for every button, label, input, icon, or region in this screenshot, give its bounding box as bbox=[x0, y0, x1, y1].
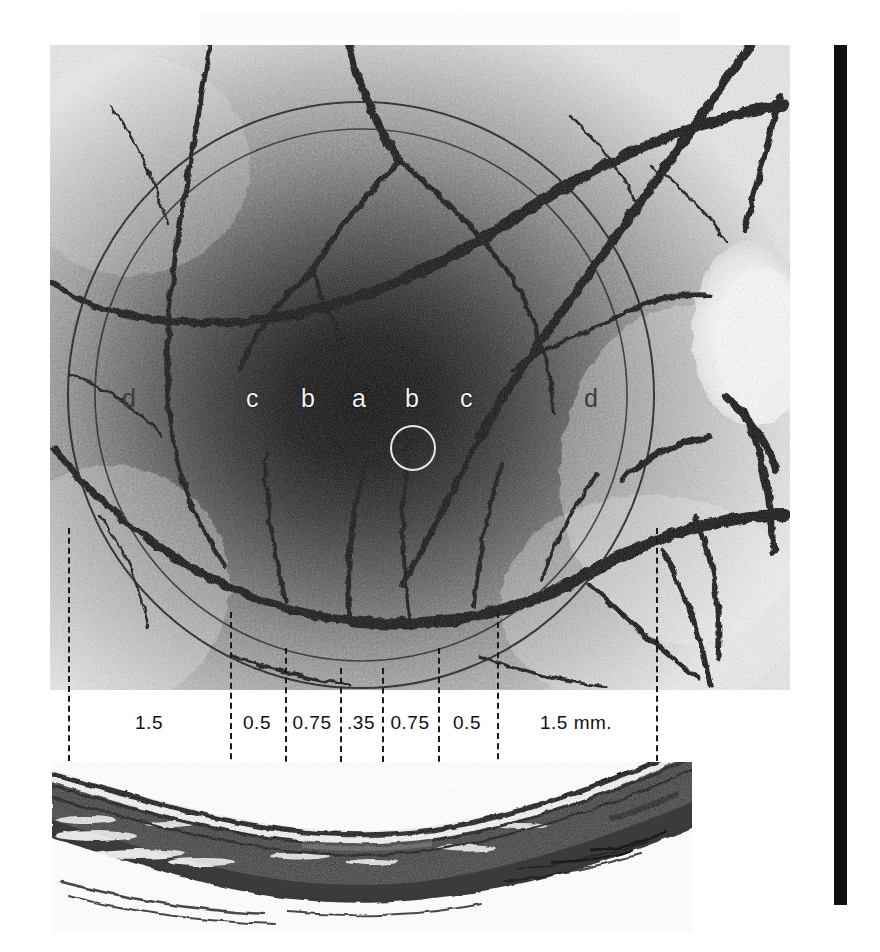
measure-label-5: 0.5 bbox=[442, 712, 492, 734]
zone-letter-a-center: a bbox=[352, 386, 366, 411]
measure-label-0: 1.5 bbox=[109, 712, 189, 734]
fundus-image bbox=[50, 45, 790, 690]
zone-letter-b-left: b bbox=[301, 386, 315, 411]
histology-cross-section bbox=[52, 762, 692, 932]
measure-label-4: 0.75 bbox=[385, 712, 435, 734]
fovea-ring-marker bbox=[390, 425, 436, 471]
fundus-photograph bbox=[50, 45, 790, 690]
paper-speckle bbox=[200, 14, 680, 40]
zone-letter-c-right: c bbox=[460, 386, 473, 411]
measure-label-3: .35 bbox=[342, 712, 380, 734]
histology-image bbox=[52, 762, 692, 932]
zone-letter-d-right: d bbox=[584, 386, 598, 411]
zone-letter-c-left: c bbox=[246, 386, 259, 411]
zone-letter-b-right: b bbox=[405, 386, 419, 411]
measure-label-1: 0.5 bbox=[232, 712, 282, 734]
measure-label-2: 0.75 bbox=[287, 712, 337, 734]
measure-label-6: 1.5 mm. bbox=[506, 712, 646, 734]
figure-plate: d c b a b c d 1.5 0.5 0.75 .35 0.75 0.5 … bbox=[0, 0, 880, 952]
zone-letter-d-left: d bbox=[122, 386, 136, 411]
page-edge-bar bbox=[834, 45, 847, 905]
